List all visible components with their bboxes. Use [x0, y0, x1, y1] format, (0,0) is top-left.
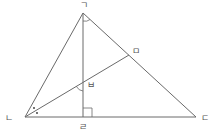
- label-rieul: ㄹ: [79, 122, 87, 132]
- bisector-dot-lower: [36, 112, 38, 114]
- right-angle-marker: [83, 108, 92, 117]
- bisector-nieun-mieum: [25, 55, 129, 117]
- label-nieun: ㄴ: [5, 113, 13, 123]
- label-digeut: ㄷ: [201, 113, 209, 123]
- label-mieum: ㅁ: [132, 46, 140, 56]
- triangle-diagram: ㄱ ㄴ ㄷ ㄹ ㅁ ㅂ: [0, 0, 223, 136]
- segment-giyeok-digeut: [83, 13, 196, 117]
- label-giyeok: ㄱ: [80, 0, 88, 10]
- bisector-dot-upper: [33, 107, 35, 109]
- apex-angle-arc: [83, 20, 90, 22]
- label-bieup: ㅂ: [87, 80, 95, 90]
- intersection-angle-arc: [76, 86, 83, 91]
- segment-giyeok-nieun: [25, 13, 83, 117]
